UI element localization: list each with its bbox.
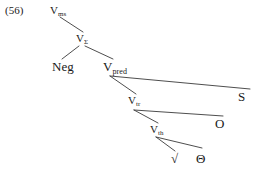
tree-node-vpred-base: V bbox=[103, 59, 113, 74]
tree-node-neg: Neg bbox=[52, 60, 74, 73]
tree-node-vsigma-subscript: Σ bbox=[84, 38, 88, 46]
tree-node-s-base: S bbox=[238, 89, 245, 104]
tree-edge-vth-to-theta bbox=[156, 137, 202, 148]
tree-node-vms: Vms bbox=[50, 5, 66, 16]
tree-node-s: S bbox=[238, 90, 245, 103]
syntax-tree-figure: (56) Vms VΣ Neg Vpred S Vtr O Vth √ Θ bbox=[0, 0, 258, 175]
tree-edge-vpred-to-vtr bbox=[110, 76, 136, 94]
example-number: (56) bbox=[5, 5, 23, 16]
tree-node-vms-subscript: ms bbox=[58, 10, 66, 18]
tree-node-vms-base: V bbox=[50, 4, 58, 16]
tree-node-o: O bbox=[215, 117, 225, 130]
tree-node-root-radical: √ bbox=[171, 152, 178, 165]
tree-node-vth: Vth bbox=[150, 124, 164, 135]
tree-edge-vms-to-vsigma bbox=[60, 17, 83, 32]
tree-node-vtr-subscript: tr bbox=[136, 100, 140, 108]
tree-node-vpred-subscript: pred bbox=[113, 67, 128, 76]
tree-edge-vpred-to-s bbox=[110, 76, 250, 89]
tree-edge-vth-to-root bbox=[156, 137, 175, 151]
tree-node-root-base: √ bbox=[171, 151, 178, 166]
tree-node-vsigma-base: V bbox=[76, 32, 84, 44]
tree-node-neg-base: Neg bbox=[52, 59, 74, 74]
tree-node-vth-subscript: th bbox=[158, 129, 164, 137]
tree-edge-vtr-to-o bbox=[134, 110, 223, 116]
tree-node-theta-base: Θ bbox=[196, 151, 206, 166]
tree-node-vpred: Vpred bbox=[103, 60, 127, 73]
tree-node-vtr: Vtr bbox=[128, 95, 141, 106]
tree-edge-vtr-to-vth bbox=[134, 110, 158, 123]
tree-node-vsigma: VΣ bbox=[76, 33, 88, 44]
tree-branch-lines bbox=[0, 0, 258, 175]
tree-node-vth-base: V bbox=[150, 123, 158, 135]
tree-node-o-base: O bbox=[215, 116, 225, 131]
tree-edge-vsigma-to-vpred bbox=[85, 46, 113, 59]
tree-node-vtr-base: V bbox=[128, 94, 136, 106]
tree-edge-vsigma-to-neg bbox=[62, 46, 79, 59]
tree-node-theta: Θ bbox=[196, 152, 206, 165]
